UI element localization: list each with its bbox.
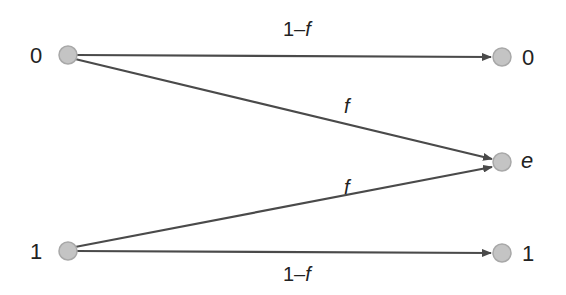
input-node-1 (59, 242, 77, 260)
output-label-e: e (521, 148, 533, 173)
input-label-1: 1 (30, 239, 42, 264)
edge-1-to-e (75, 167, 492, 247)
edge-label-0-to-0: 1–f (283, 18, 313, 40)
input-node-0 (59, 46, 77, 64)
edge-0-to-e (75, 59, 492, 159)
output-node-0 (493, 48, 511, 66)
edge-label-1-to-1: 1–f (283, 263, 313, 285)
edge-1-to-1 (76, 251, 491, 253)
edge-label-0-to-e: f (344, 95, 352, 117)
output-label-0: 0 (522, 45, 534, 70)
output-label-1: 1 (522, 241, 534, 266)
erasure-channel-diagram: 0 1 0 e 1 1–f f f 1–f (0, 0, 566, 295)
input-label-0: 0 (30, 43, 42, 68)
output-node-e (493, 153, 511, 171)
output-node-1 (493, 244, 511, 262)
edge-0-to-0 (76, 55, 491, 57)
